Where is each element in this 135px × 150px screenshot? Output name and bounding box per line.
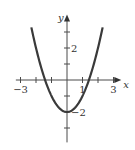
y-axis-arrow	[64, 14, 70, 21]
parabola-chart: −3132−2xy	[0, 0, 135, 150]
x-axis-label: x	[123, 79, 129, 90]
y-axis-label: y	[57, 12, 64, 23]
x-tick-label: 3	[110, 84, 116, 95]
y-tick-label: 2	[71, 43, 77, 54]
x-tick-label: −3	[13, 84, 28, 95]
x-axis-arrow	[114, 77, 121, 83]
